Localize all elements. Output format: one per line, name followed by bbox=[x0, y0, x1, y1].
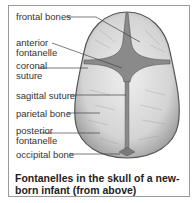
label-frontal-bones: frontal bones bbox=[16, 11, 71, 22]
label-coronal-suture-line2: suture bbox=[16, 70, 42, 81]
label-anterior-fontanelle-line2: fontanelle bbox=[16, 47, 57, 58]
sagittal-suture bbox=[125, 82, 129, 150]
figure-caption: Fontanelles in the skull of a new-born i… bbox=[15, 172, 190, 196]
label-occipital-bone: occipital bone bbox=[16, 149, 74, 160]
label-sagittal-suture: sagittal suture bbox=[16, 90, 75, 101]
label-parietal-bone: parietal bone bbox=[16, 108, 71, 119]
label-posterior-fontanelle-line2: fontanelle bbox=[16, 135, 57, 146]
